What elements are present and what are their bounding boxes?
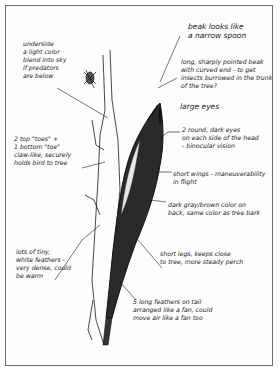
- annotation-underside: underside a light color blend into sky i…: [23, 40, 67, 80]
- annotation-eyes-detail: 2 round, dark eyes on each side of the h…: [182, 126, 259, 150]
- annotation-beak-spoon: beak looks like a narrow spoon: [188, 22, 246, 40]
- annotation-feathers: lots of tiny, white feathers - very dens…: [16, 248, 71, 280]
- annotation-toes: 2 top "toes" + 1 bottom "toe" claw-like,…: [14, 135, 71, 167]
- annotation-back-color: dark gray/brown color on back, same colo…: [168, 201, 260, 217]
- annotation-legs: short legs, keeps close to tree, more st…: [160, 250, 243, 266]
- annotation-large-eyes: large eyes: [180, 102, 219, 111]
- beetle-icon: [84, 70, 96, 88]
- annotation-tail: 5 long feathers on tail arranged like a …: [133, 298, 212, 322]
- annotation-wings: short wings - maneuverability in flight: [173, 170, 265, 186]
- annotation-beak-long: long, sharply pointed beak with curved e…: [181, 58, 272, 90]
